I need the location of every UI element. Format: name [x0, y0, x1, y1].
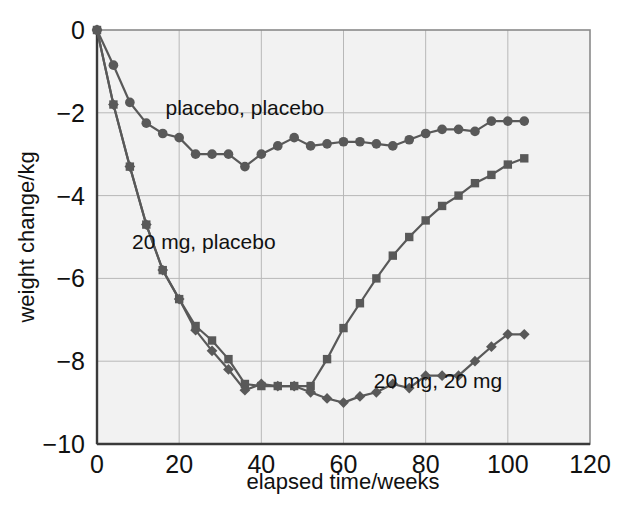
- data-point-marker: [322, 139, 332, 149]
- data-point-marker: [224, 149, 234, 159]
- data-point-marker: [109, 60, 119, 70]
- y-tick-label: 0: [71, 16, 85, 44]
- data-point-marker: [519, 116, 529, 126]
- data-point-marker: [356, 299, 364, 307]
- y-tick-label: −8: [56, 347, 85, 375]
- y-axis-title: weight change/kg: [14, 151, 39, 323]
- x-tick-label: 100: [487, 450, 529, 478]
- y-tick-label: −2: [56, 99, 85, 127]
- data-point-marker: [191, 149, 201, 159]
- data-point-marker: [207, 149, 217, 159]
- data-point-marker: [438, 202, 446, 210]
- data-point-marker: [240, 162, 250, 172]
- data-point-marker: [158, 129, 168, 139]
- data-point-marker: [323, 355, 331, 363]
- data-point-marker: [454, 125, 464, 135]
- data-point-marker: [174, 133, 184, 143]
- data-point-marker: [471, 179, 479, 187]
- data-point-marker: [273, 141, 283, 151]
- data-point-marker: [421, 129, 431, 139]
- x-axis-title: elapsed time/weeks: [246, 469, 439, 494]
- data-point-marker: [257, 149, 267, 159]
- data-point-marker: [454, 191, 462, 199]
- data-point-marker: [503, 116, 513, 126]
- y-tick-label: −6: [56, 264, 85, 292]
- data-point-marker: [520, 154, 528, 162]
- data-point-marker: [208, 336, 216, 344]
- data-point-marker: [339, 324, 347, 332]
- x-tick-label: 20: [165, 450, 193, 478]
- data-point-marker: [487, 116, 497, 126]
- data-point-marker: [388, 141, 398, 151]
- chart-figure: 020406080100120 0−2−4−6−8−10 placebo, pl…: [0, 0, 635, 517]
- data-point-marker: [355, 137, 365, 147]
- series-label-3: 20 mg, 20 mg: [374, 369, 502, 392]
- data-point-marker: [224, 355, 232, 363]
- data-point-marker: [404, 135, 414, 145]
- data-point-marker: [339, 137, 349, 147]
- data-point-marker: [487, 171, 495, 179]
- series-label-1: placebo, placebo: [166, 96, 325, 119]
- data-point-marker: [125, 98, 135, 108]
- data-point-marker: [405, 233, 413, 241]
- data-point-marker: [306, 141, 316, 151]
- data-point-marker: [389, 251, 397, 259]
- y-tick-label: −10: [43, 430, 85, 458]
- data-point-marker: [289, 133, 299, 143]
- data-point-marker: [437, 125, 447, 135]
- data-point-marker: [421, 216, 429, 224]
- series-label-2: 20 mg, placebo: [132, 230, 276, 253]
- line-chart: 020406080100120 0−2−4−6−8−10 placebo, pl…: [0, 0, 635, 517]
- data-point-marker: [470, 127, 480, 137]
- data-point-marker: [504, 160, 512, 168]
- data-point-marker: [372, 139, 382, 149]
- x-tick-label: 120: [569, 450, 611, 478]
- data-point-marker: [141, 118, 151, 128]
- data-point-marker: [372, 274, 380, 282]
- y-tick-label: −4: [56, 182, 85, 210]
- x-tick-label: 0: [90, 450, 104, 478]
